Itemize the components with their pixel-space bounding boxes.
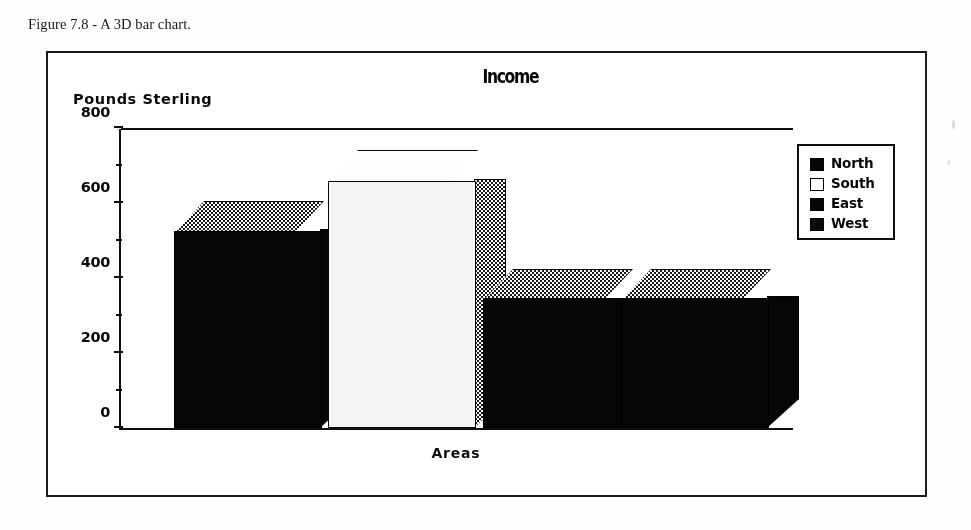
bar-north[interactable]	[174, 231, 322, 428]
legend-item-south[interactable]: South	[810, 174, 893, 194]
y-tick-0	[114, 426, 123, 428]
y-tick-600	[114, 201, 123, 203]
bar-west[interactable]	[621, 298, 769, 428]
bar-east[interactable]	[483, 298, 631, 428]
legend-label-north: North	[831, 157, 873, 171]
y-tick-label-800: 800	[81, 104, 110, 120]
y-tick-minor-100	[116, 389, 122, 391]
y-tick-minor-300	[116, 314, 122, 316]
y-tick-label-600: 600	[81, 179, 110, 195]
bar-north-front-face	[174, 231, 322, 428]
legend-swatch-west-icon	[810, 218, 824, 231]
chart-title: Income	[127, 65, 846, 87]
y-tick-minor-700	[116, 164, 122, 166]
legend-label-south: South	[831, 177, 875, 191]
bar-west-top-face	[621, 269, 771, 301]
plot-area: 800 600 400 200 0	[119, 129, 793, 430]
bar-west-front-face	[621, 298, 769, 428]
x-axis-label: Areas	[119, 445, 793, 461]
figure-frame: Income Pounds Sterling 800 600 400 200 0	[46, 51, 927, 497]
bar-west-side-face	[767, 296, 799, 428]
bar-south-front-face	[328, 181, 476, 428]
y-tick-label-200: 200	[81, 329, 110, 345]
legend-item-east[interactable]: East	[810, 194, 893, 214]
y-tick-200	[114, 351, 123, 353]
legend-label-east: East	[831, 197, 863, 211]
bar-north-top-face	[174, 201, 324, 234]
y-tick-800	[114, 126, 123, 128]
legend-swatch-north-icon	[810, 158, 824, 171]
scan-speckle	[952, 120, 955, 129]
bar-south[interactable]	[328, 181, 476, 428]
legend-item-north[interactable]: North	[810, 154, 893, 174]
plot-top-rule	[121, 128, 793, 130]
legend-swatch-east-icon	[810, 198, 824, 211]
legend-label-west: West	[831, 217, 868, 231]
chart-title-text: Income	[482, 65, 538, 87]
y-tick-minor-500	[116, 239, 122, 241]
chart-legend: North South East West	[797, 144, 895, 240]
y-tick-400	[114, 276, 123, 278]
legend-swatch-south-icon	[810, 178, 824, 191]
y-tick-label-400: 400	[81, 254, 110, 270]
scan-speckle	[948, 160, 950, 165]
figure-caption: Figure 7.8 - A 3D bar chart.	[28, 16, 191, 33]
y-tick-label-0: 0	[100, 404, 110, 420]
legend-item-west[interactable]: West	[810, 214, 893, 234]
bar-south-top-face	[328, 150, 478, 184]
bar-east-front-face	[483, 298, 631, 428]
